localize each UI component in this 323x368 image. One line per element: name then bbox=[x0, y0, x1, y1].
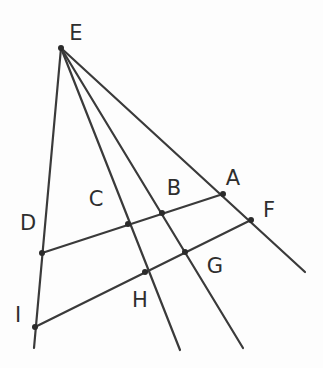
vertex-label-c: C bbox=[89, 189, 104, 210]
geometry-figure: EABCDFGHI bbox=[0, 0, 323, 368]
vertex-label-e: E bbox=[69, 23, 82, 44]
point-g-marker bbox=[182, 249, 188, 255]
vertex-label-g: G bbox=[207, 256, 223, 277]
vertex-label-i: I bbox=[15, 305, 21, 326]
vertex-label-h: H bbox=[132, 290, 148, 311]
point-e-marker bbox=[58, 45, 64, 51]
vertex-label-f: F bbox=[263, 200, 275, 221]
geometry-canvas bbox=[0, 0, 323, 368]
vertex-label-d: D bbox=[20, 213, 36, 234]
transversal-D-to-A bbox=[42, 194, 223, 253]
point-i-marker bbox=[32, 324, 38, 330]
point-f-marker bbox=[248, 217, 254, 223]
ray-E-through-A-F bbox=[61, 48, 305, 272]
point-b-marker bbox=[159, 210, 165, 216]
point-d-marker bbox=[39, 250, 45, 256]
point-c-marker bbox=[125, 221, 131, 227]
ray-E-to-left-bottom bbox=[34, 48, 61, 348]
point-h-marker bbox=[142, 269, 148, 275]
vertex-label-b: B bbox=[167, 178, 181, 199]
point-a-marker bbox=[220, 191, 226, 197]
vertex-label-a: A bbox=[226, 168, 240, 189]
